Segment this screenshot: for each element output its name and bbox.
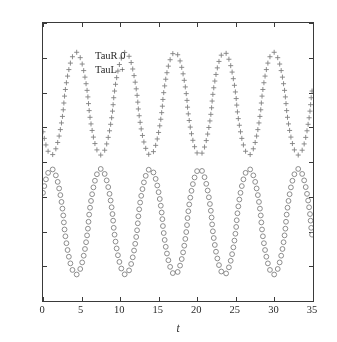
x-tick-label: 0 — [39, 305, 44, 316]
x-tick-label: 20 — [191, 305, 202, 316]
legend-entry-taul: TauL + — [95, 64, 125, 75]
legend-entry-taur: TauR 0 — [95, 50, 125, 61]
x-tick-label: 25 — [230, 305, 241, 316]
x-tick-label: 5 — [78, 305, 83, 316]
x-tick-label: 35 — [307, 305, 318, 316]
x-axis-title: t — [176, 322, 179, 334]
figure: TauR 0 TauL + 20151050−5−10−15−20 051015… — [0, 0, 337, 342]
x-tick-label: 15 — [152, 305, 163, 316]
x-tick-label: 10 — [114, 305, 125, 316]
x-tick-label: 30 — [268, 305, 279, 316]
plot-area: TauR 0 TauL + — [42, 22, 314, 302]
scatter-plot-canvas — [43, 23, 313, 301]
